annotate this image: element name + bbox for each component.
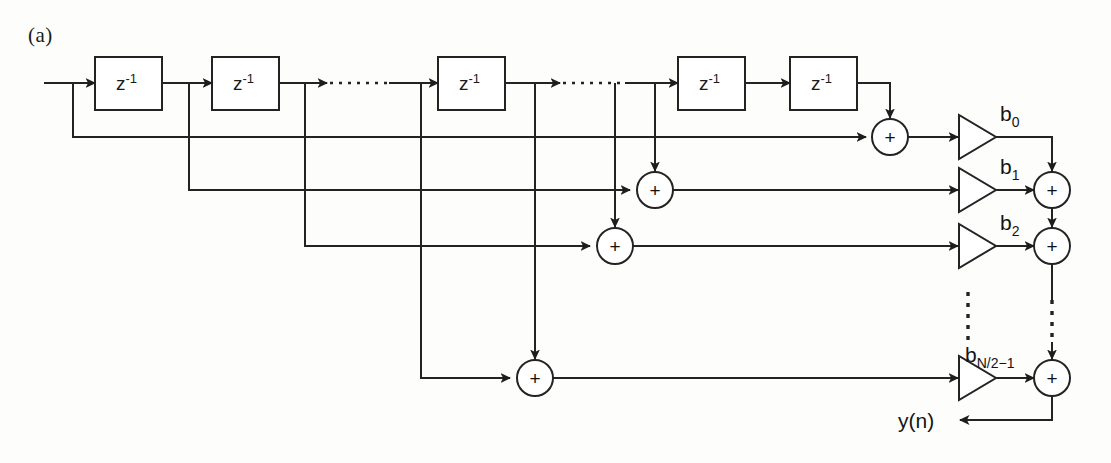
- figure-canvas: (a) z-1 z-1 z-1 z-1: [0, 0, 1111, 463]
- delay-exponent-z3: -1: [469, 71, 481, 86]
- delay-block-z4: z-1: [678, 57, 745, 110]
- gain-block-b1: b1: [959, 155, 1020, 212]
- gain-block-b0: b0: [959, 102, 1020, 159]
- delay-block-z1: z-1: [95, 57, 162, 110]
- delay-exponent-z1: -1: [126, 71, 138, 86]
- sum-adder-last-symbol: +: [1046, 368, 1057, 389]
- tap-line-last: [421, 83, 510, 378]
- tap-adder-0-symbol: +: [884, 127, 895, 148]
- delay-exponent-z2: -1: [243, 71, 255, 86]
- gain-block-bN: bN/2−1: [959, 343, 1015, 400]
- tap-adder-last: +: [517, 360, 553, 396]
- tap-adder-0: +: [872, 119, 908, 155]
- coefficient-subscript-b2: 2: [1012, 223, 1020, 239]
- output-wire: [960, 396, 1052, 420]
- tap-adder-last-symbol: +: [529, 368, 540, 389]
- output-label: y(n): [898, 409, 934, 432]
- coefficient-subscript-b0: 0: [1012, 114, 1020, 130]
- coefficient-label-b1: b1: [1000, 155, 1020, 183]
- coefficient-subscript-bN: N/2−1: [977, 355, 1015, 371]
- tap-adder-2-symbol: +: [609, 236, 620, 257]
- delay-block-z3: z-1: [438, 57, 505, 110]
- coefficient-label-b2: b2: [1000, 211, 1020, 239]
- signal-flow-diagram: z-1 z-1 z-1 z-1 z-1: [0, 0, 1111, 463]
- gain-block-b2: b2: [959, 211, 1020, 268]
- tap-adder-1-symbol: +: [649, 180, 660, 201]
- delay-block-z2: z-1: [212, 57, 279, 110]
- output-label-group: y(n): [898, 409, 934, 432]
- coefficient-subscript-b1: 1: [1012, 167, 1020, 183]
- delay-exponent-z4: -1: [709, 71, 721, 86]
- delay-out-to-adder-0: [857, 83, 890, 118]
- coefficient-label-b0: b0: [1000, 102, 1020, 130]
- delay-block-z5: z-1: [790, 57, 857, 110]
- sum-adder-1-symbol: +: [1046, 180, 1057, 201]
- sum-adder-last: +: [1034, 360, 1070, 396]
- tap-adder-1: +: [637, 172, 673, 208]
- delay-exponent-z5: -1: [821, 71, 833, 86]
- sum-adder-2-symbol: +: [1046, 236, 1057, 257]
- tap-adder-2: +: [597, 228, 633, 264]
- sum-adder-1: +: [1034, 172, 1070, 208]
- sum-adder-2: +: [1034, 228, 1070, 264]
